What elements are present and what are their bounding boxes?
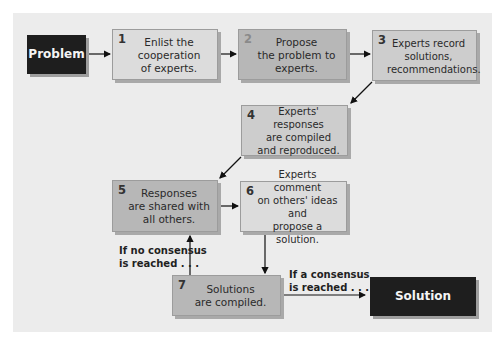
step-2-box: 2 Propose the problem to experts.	[238, 29, 347, 80]
problem-label: Problem	[28, 48, 84, 61]
step-3-box: 3 Experts record solutions, recommendati…	[372, 30, 477, 81]
step-3-text: Experts record solutions, recommendation…	[373, 36, 476, 75]
step-7-text: Solutions are compiled.	[173, 283, 280, 309]
no-consensus-label: If no consensus is reached . . .	[119, 244, 207, 270]
step-5-text: Responses are shared with all others.	[113, 187, 217, 226]
step-6-text: Experts comment on others' ideas and pro…	[241, 168, 346, 246]
problem-box: Problem	[27, 35, 86, 74]
step-2-text: Propose the problem to experts.	[239, 35, 346, 74]
step-1-text: Enlist the cooperation of experts.	[113, 35, 217, 74]
step-5-box: 5 Responses are shared with all others.	[112, 180, 218, 232]
step-7-box: 7 Solutions are compiled.	[172, 275, 281, 316]
step-4-text: Experts' responses are compiled and repr…	[242, 105, 347, 157]
step-6-box: 6 Experts comment on others' ideas and p…	[240, 181, 347, 232]
solution-box: Solution	[370, 277, 476, 316]
step-1-box: 1 Enlist the cooperation of experts.	[112, 29, 218, 80]
step-4-box: 4 Experts' responses are compiled and re…	[241, 105, 348, 156]
solution-label: Solution	[395, 290, 451, 303]
consensus-label: If a consensus is reached . . .	[289, 268, 370, 294]
